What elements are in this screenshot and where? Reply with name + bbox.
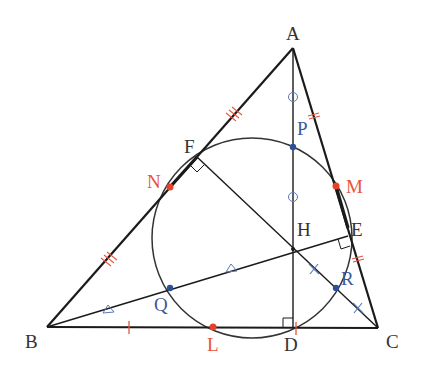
label-p: P	[297, 118, 308, 139]
label-b: B	[25, 331, 38, 352]
point-h	[291, 247, 295, 251]
label-n: N	[147, 171, 161, 192]
label-l: L	[207, 334, 219, 355]
point-n	[167, 184, 174, 191]
nine-point-circle	[152, 138, 352, 338]
point-r	[333, 285, 339, 291]
label-e: E	[351, 219, 363, 240]
point-q	[167, 285, 173, 291]
triangle-abc	[47, 48, 378, 328]
label-m: M	[346, 176, 363, 197]
label-q: Q	[154, 294, 168, 315]
label-d: D	[284, 334, 298, 355]
right-angle-e	[338, 239, 350, 249]
diagram-canvas: A B C D E F H L M N P Q R	[0, 0, 422, 381]
nine-point-circle-diagram: A B C D E F H L M N P Q R	[0, 0, 422, 381]
point-m	[333, 183, 340, 190]
segment-n-f	[170, 157, 197, 187]
label-r: R	[341, 268, 354, 289]
label-h: H	[297, 219, 311, 240]
label-f: F	[184, 136, 195, 157]
point-p	[290, 144, 296, 150]
label-c: C	[386, 331, 399, 352]
right-angle-d	[283, 318, 293, 328]
label-a: A	[286, 23, 300, 44]
right-angle-f	[190, 165, 204, 172]
right-angle-marks	[190, 165, 350, 328]
altitudes	[47, 48, 378, 328]
point-l	[210, 324, 217, 331]
altitude-be	[47, 236, 348, 327]
